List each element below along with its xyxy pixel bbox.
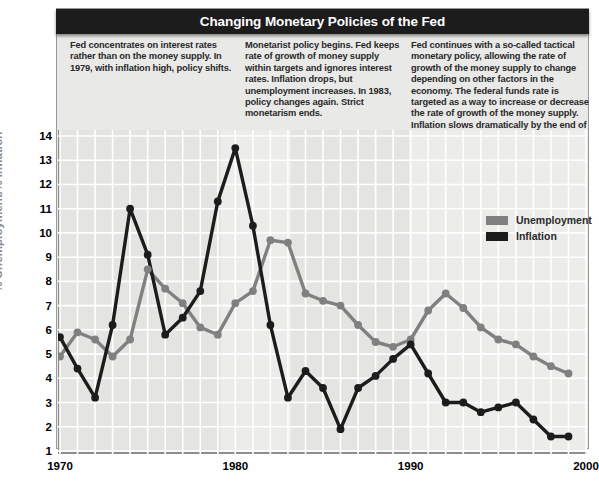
y-tick-11: 11: [18, 203, 52, 215]
annotation-policy-era-1: Fed concentrates on interest rates rathe…: [70, 40, 240, 74]
y-tick-1: 1: [18, 445, 52, 457]
legend-label-unemployment: Unemployment: [516, 214, 592, 226]
annotation-text: Monetarist policy begins. Fed keeps rate…: [245, 40, 407, 120]
y-tick-10: 10: [18, 227, 52, 239]
annotation-text: Fed continues with a so-called tactical …: [411, 40, 589, 143]
y-tick-6: 6: [18, 324, 52, 336]
data-series-layer: [58, 130, 587, 454]
y-tick-4: 4: [18, 372, 52, 384]
plot-canvas: Unemployment Inflation: [58, 130, 587, 454]
legend-item-inflation: Inflation: [486, 230, 592, 242]
legend-swatch-unemployment: [486, 216, 508, 225]
page-title: Changing Monetary Policies of the Fed: [200, 14, 445, 29]
annotation-policy-era-3: Fed continues with a so-called tactical …: [411, 40, 589, 143]
y-tick-8: 8: [18, 275, 52, 287]
y-tick-12: 12: [18, 178, 52, 190]
y-tick-5: 5: [18, 348, 52, 360]
annotation-policy-era-2: Monetarist policy begins. Fed keeps rate…: [245, 40, 407, 120]
y-tick-2: 2: [18, 421, 52, 433]
y-tick-7: 7: [18, 300, 52, 312]
y-tick-9: 9: [18, 251, 52, 263]
legend-item-unemployment: Unemployment: [486, 214, 592, 226]
y-tick-3: 3: [18, 397, 52, 409]
chart-title-bar: Changing Monetary Policies of the Fed: [56, 9, 589, 34]
plot-area: Unemployment Inflation 14131211109876543…: [58, 130, 588, 455]
chart-legend: Unemployment Inflation: [486, 214, 592, 246]
y-axis-title: % Unemployment/% Inflation: [0, 132, 4, 292]
legend-label-inflation: Inflation: [516, 230, 557, 242]
annotation-text: Fed concentrates on interest rates rathe…: [70, 40, 240, 74]
y-tick-13: 13: [18, 154, 52, 166]
legend-swatch-inflation: [486, 232, 508, 241]
x-tick-1990: 1990: [398, 460, 424, 472]
x-tick-1980: 1980: [223, 460, 249, 472]
x-tick-1970: 1970: [47, 460, 73, 472]
y-tick-14: 14: [18, 130, 52, 142]
x-tick-2000: 2000: [573, 460, 599, 472]
